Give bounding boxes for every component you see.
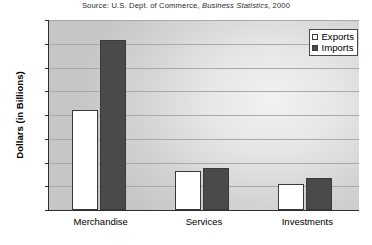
source-citation: Source: U.S. Dept. of Commerce, Business… (0, 1, 372, 10)
source-prefix: Source: U.S. Dept. of Commerce, (82, 1, 202, 10)
bar-exports-services (175, 171, 201, 210)
gridline (49, 20, 359, 21)
source-suffix: , 2000 (268, 1, 290, 10)
trade-bar-chart: Source: U.S. Dept. of Commerce, Business… (0, 0, 372, 245)
bar-imports-merchandise (100, 40, 126, 210)
bar-imports-services (203, 168, 229, 210)
y-tick-mark (45, 91, 49, 92)
legend-label-imports: Imports (321, 42, 353, 53)
chart-legend: Exports Imports (309, 29, 358, 56)
y-tick-mark (45, 139, 49, 140)
y-tick-mark (45, 68, 49, 69)
y-tick-mark (45, 210, 49, 211)
y-tick-mark (45, 44, 49, 45)
y-tick-mark (45, 115, 49, 116)
y-tick-mark (45, 20, 49, 21)
gridline (49, 91, 359, 92)
y-tick-mark (45, 163, 49, 164)
bar-exports-investments (278, 184, 304, 210)
plot-area: 0100200300400500600700800 Dollars (in Bi… (48, 20, 359, 211)
x-tick-label-merchandise: Merchandise (41, 216, 161, 227)
source-publication-title: Business Statistics (202, 1, 268, 10)
exports-swatch-icon (312, 34, 318, 40)
bar-imports-investments (306, 178, 332, 210)
legend-label-exports: Exports (321, 31, 354, 42)
gridline (49, 68, 359, 69)
x-tick-label-services: Services (144, 216, 264, 227)
x-tick-label-investments: Investments (247, 216, 367, 227)
y-axis-title: Dollars (in Billions) (14, 20, 28, 210)
imports-swatch-icon (312, 45, 318, 51)
y-tick-mark (45, 186, 49, 187)
legend-item-imports: Imports (312, 42, 354, 53)
legend-item-exports: Exports (312, 31, 354, 42)
bar-exports-merchandise (72, 110, 98, 210)
